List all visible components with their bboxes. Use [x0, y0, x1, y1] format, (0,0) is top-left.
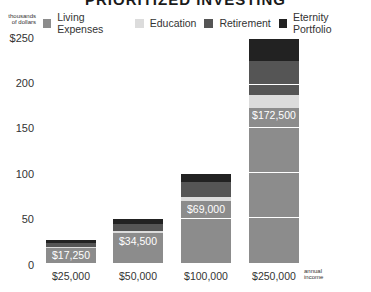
- gridline: [249, 84, 299, 85]
- segment-living: $69,000: [181, 201, 231, 263]
- y-axis-unit: thousands of dollars: [2, 13, 36, 25]
- y-tick: 100: [0, 168, 34, 180]
- xunit-line-2: income: [304, 274, 323, 280]
- y-tick: 0: [0, 259, 34, 271]
- x-axis-unit: annual income: [304, 268, 323, 280]
- bar-100000: $69,000: [181, 174, 231, 263]
- bar-value-label: $17,250: [46, 249, 96, 261]
- bar-value-label: $172,500: [249, 109, 299, 121]
- gridline: [249, 172, 299, 173]
- bar-value-label: $34,500: [113, 235, 163, 247]
- legend-label: Eternity Portfolio: [293, 11, 363, 35]
- swatch-icon: [135, 19, 144, 28]
- legend-label: Living Expenses: [57, 11, 127, 35]
- gridline: [249, 217, 299, 218]
- gridline: [249, 127, 299, 128]
- y-tick: 50: [0, 213, 34, 225]
- x-tick: $100,000: [171, 270, 241, 282]
- segment-living: $34,500: [113, 233, 163, 263]
- bar-50000: $34,500: [113, 219, 163, 263]
- segment-eternity: [181, 174, 231, 182]
- bar-25000: $17,250: [46, 240, 96, 263]
- legend-label: Education: [150, 17, 197, 29]
- gridline: [181, 218, 231, 219]
- segment-retirement: [113, 224, 163, 231]
- legend-item-eternity: Eternity Portfolio: [279, 11, 363, 35]
- swatch-icon: [43, 19, 51, 28]
- bar-value-label: $69,000: [181, 203, 231, 215]
- legend-item-education: Education: [135, 17, 197, 29]
- y-tick: 200: [0, 77, 34, 89]
- y-tick: 150: [0, 122, 34, 134]
- legend-item-retirement: Retirement: [204, 17, 270, 29]
- segment-retirement: [249, 61, 299, 95]
- x-tick: $250,000: [239, 270, 309, 282]
- segment-eternity: [249, 39, 299, 61]
- bar-250000: $172,500: [249, 39, 299, 263]
- legend-label: Retirement: [219, 17, 270, 29]
- segment-living: $17,250: [46, 248, 96, 263]
- legend-item-living: Living Expenses: [43, 11, 127, 35]
- segment-living: $172,500: [249, 108, 299, 263]
- y-tick: $250: [0, 32, 34, 44]
- chart-title: PRIORITIZED INVESTING: [0, 0, 371, 8]
- segment-retirement: [181, 182, 231, 197]
- segment-education: [249, 95, 299, 108]
- unit-line-2: of dollars: [2, 19, 36, 25]
- swatch-icon: [279, 19, 287, 28]
- legend: Living Expenses Education Retirement Ete…: [43, 11, 371, 35]
- swatch-icon: [204, 19, 213, 28]
- x-tick: $50,000: [103, 270, 173, 282]
- x-tick: $25,000: [36, 270, 106, 282]
